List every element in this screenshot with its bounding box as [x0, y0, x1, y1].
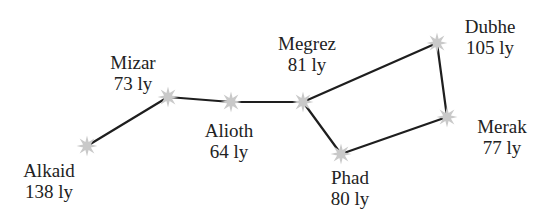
star-name: Merak [477, 116, 527, 137]
star-distance: 80 ly [331, 188, 370, 209]
label-phad: Phad 80 ly [331, 167, 370, 209]
star-name: Alioth [205, 120, 254, 141]
connection-line-merak-phad [341, 117, 447, 154]
star-distance: 77 ly [477, 137, 527, 158]
label-merak: Merak 77 ly [477, 116, 527, 158]
star-icon-alioth [221, 92, 242, 113]
star-name: Megrez [278, 33, 336, 54]
label-alkaid: Alkaid 138 ly [23, 160, 75, 202]
star-distance: 105 ly [465, 37, 516, 58]
label-alioth: Alioth 64 ly [205, 120, 254, 162]
connection-line-alkaid-mizar [87, 97, 168, 146]
star-icon-phad [331, 144, 352, 165]
connection-line-phad-megrez [303, 102, 341, 154]
star-distance: 64 ly [205, 141, 254, 162]
label-mizar: Mizar 73 ly [110, 52, 155, 94]
label-megrez: Megrez 81 ly [278, 33, 336, 75]
star-name: Alkaid [23, 160, 75, 181]
star-icon-mizar [158, 87, 179, 108]
big-dipper-diagram: Alkaid 138 ly Mizar 73 ly Alioth 64 ly M… [0, 0, 547, 220]
star-icon-merak [437, 107, 458, 128]
connection-line-mizar-alioth [168, 97, 231, 102]
star-name: Dubhe [465, 16, 516, 37]
star-name: Phad [331, 167, 370, 188]
star-icon-dubhe [427, 33, 448, 54]
star-distance: 81 ly [278, 54, 336, 75]
connection-line-dubhe-merak [437, 43, 447, 117]
label-dubhe: Dubhe 105 ly [465, 16, 516, 58]
star-icon-megrez [293, 92, 314, 113]
star-icon-alkaid [77, 136, 98, 157]
star-distance: 138 ly [23, 181, 75, 202]
star-name: Mizar [110, 52, 155, 73]
star-distance: 73 ly [110, 73, 155, 94]
